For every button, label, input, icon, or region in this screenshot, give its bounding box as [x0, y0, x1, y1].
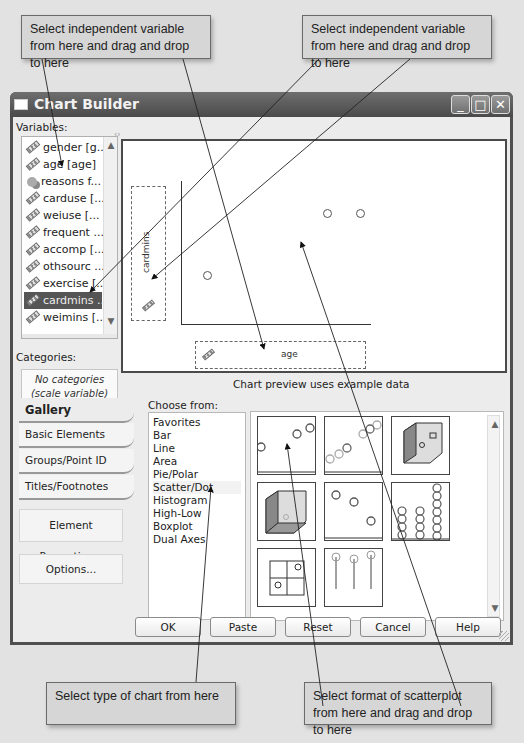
annotation-arrows: [0, 0, 524, 743]
